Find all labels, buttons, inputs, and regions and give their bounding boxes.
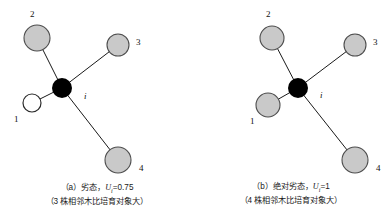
neighbor-node-4-b — [342, 147, 368, 173]
edge-center-to-3-a — [69, 51, 110, 82]
neighbor-node-2-a — [24, 25, 50, 51]
caption-a-line1: （a）劣态，Ui=0.75 — [0, 182, 194, 195]
neighbor-node-4-a — [105, 147, 131, 173]
caption-b-value: =1 — [320, 182, 329, 191]
caption-a-prefix: （a）劣态， — [61, 183, 106, 192]
caption-b-prefix: （b）绝对劣态， — [252, 182, 313, 191]
neighbor-label-4-a: 4 — [139, 164, 144, 173]
edge-center-to-1-b — [278, 92, 290, 99]
edge-center-to-3-b — [305, 51, 346, 82]
neighbor-label-2-b: 2 — [266, 10, 271, 19]
neighbor-label-1-a: 1 — [14, 115, 19, 124]
center-node-a — [52, 78, 72, 98]
neighbor-node-3-b — [344, 34, 366, 56]
neighbor-label-2-a: 2 — [30, 10, 35, 19]
neighbor-node-3-a — [107, 34, 129, 56]
neighbor-label-3-b: 3 — [373, 38, 378, 47]
center-node-b — [288, 78, 308, 98]
panel-b: i 1 2 3 4 （b）绝对劣态，Ui=1 （4 株相邻木比培育对象大） — [194, 0, 388, 219]
caption-b-line1: （b）绝对劣态，Ui=1 — [194, 181, 388, 194]
caption-b-line2: （4 株相邻木比培育对象大） — [194, 195, 388, 206]
edge-group-b — [277, 48, 347, 150]
neighbor-node-1-b — [256, 93, 280, 117]
neighbor-node-2-b — [260, 26, 284, 50]
neighbor-label-1-b: 1 — [250, 117, 255, 126]
edge-group-a — [40, 49, 111, 150]
panel-a: i 1 2 3 4 （a）劣态，Ui=0.75 （3 株相邻木比培育对象大） — [0, 0, 194, 219]
edge-center-to-2-a — [43, 49, 58, 80]
edge-center-to-1-a — [40, 92, 54, 99]
graph-a — [0, 0, 194, 178]
neighbor-node-1-a — [23, 94, 41, 112]
neighbor-label-3-a: 3 — [136, 38, 141, 47]
neighbor-label-4-b: 4 — [376, 164, 381, 173]
caption-a-line2: （3 株相邻木比培育对象大） — [0, 196, 194, 207]
edge-center-to-4-b — [304, 95, 348, 150]
node-group-a — [23, 25, 131, 173]
edge-center-to-2-b — [277, 48, 294, 80]
edge-center-to-4-a — [68, 95, 111, 150]
node-group-b — [256, 26, 368, 173]
center-node-label-b: i — [320, 91, 323, 100]
graph-b — [194, 0, 388, 178]
caption-a-value: =0.75 — [113, 183, 134, 192]
figure-container: i 1 2 3 4 （a）劣态，Ui=0.75 （3 株相邻木比培育对象大） i… — [0, 0, 388, 219]
center-node-label-a: i — [84, 92, 87, 101]
